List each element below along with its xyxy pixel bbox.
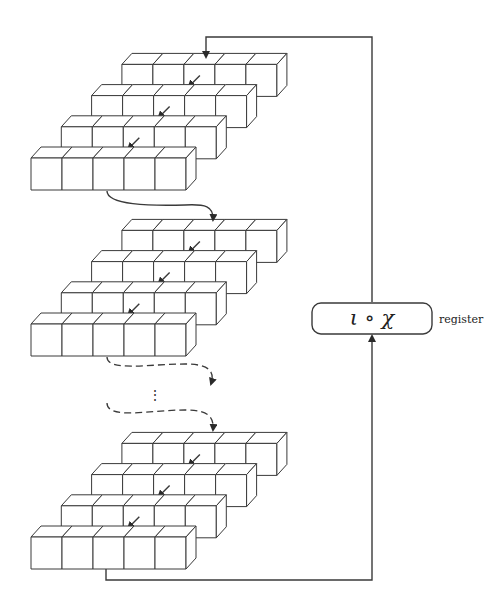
lane-row (31, 313, 196, 356)
register-function-label: ι ∘ χ (350, 306, 396, 330)
register-box: ι ∘ χ (312, 303, 432, 334)
state-group-2 (31, 219, 287, 356)
lane-row (31, 147, 196, 190)
connector-2-to-ellipsis (107, 357, 212, 384)
connector-ellipsis-to-n (107, 403, 213, 430)
state-group-1 (31, 53, 287, 190)
register-label: register (439, 313, 484, 326)
ellipsis: ⋮ (148, 387, 162, 403)
connector-1-to-2 (107, 191, 213, 220)
state-group-n (31, 432, 287, 569)
lane-row (31, 526, 196, 569)
diagram-canvas: ⋮ ι ∘ χ register (0, 0, 501, 598)
